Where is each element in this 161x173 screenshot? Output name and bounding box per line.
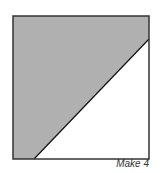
figure-caption: Make 4 xyxy=(116,158,149,169)
quilt-block-figure xyxy=(0,0,161,173)
